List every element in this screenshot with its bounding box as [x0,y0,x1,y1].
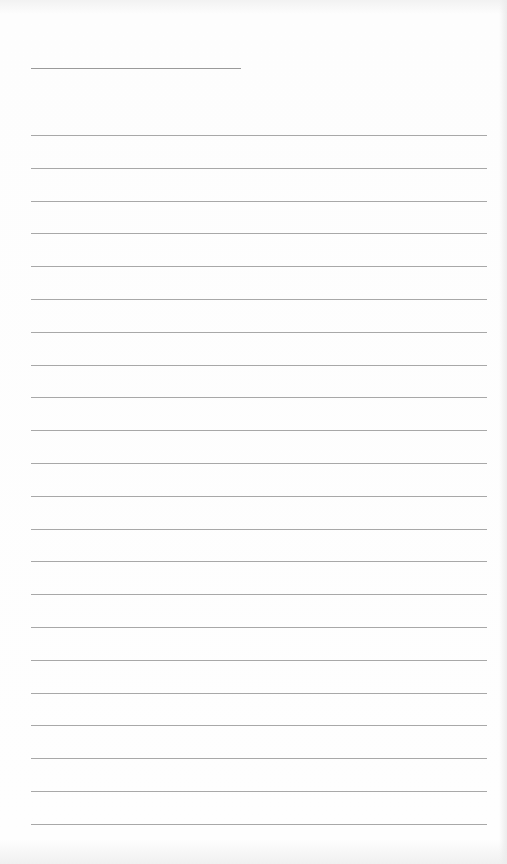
ruled-line [31,201,487,202]
title-underline [31,68,241,69]
ruled-line [31,594,487,595]
ruled-line [31,725,487,726]
ruled-line [31,332,487,333]
ruled-line [31,529,487,530]
ruled-line [31,627,487,628]
ruled-line [31,693,487,694]
ruled-line [31,266,487,267]
lined-paper-page [0,0,507,864]
ruled-line [31,365,487,366]
ruled-line [31,561,487,562]
ruled-line [31,135,487,136]
ruled-line [31,430,487,431]
ruled-line [31,660,487,661]
ruled-line [31,463,487,464]
ruled-line [31,758,487,759]
ruled-line [31,168,487,169]
ruled-line [31,233,487,234]
ruled-line [31,791,487,792]
ruled-line [31,299,487,300]
ruled-line [31,824,487,825]
ruled-line [31,496,487,497]
ruled-line [31,397,487,398]
